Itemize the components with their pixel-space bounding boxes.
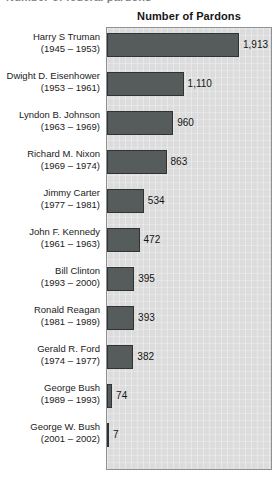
bar-container: 863 xyxy=(107,150,271,174)
bar xyxy=(107,306,134,330)
category-years: (1945 – 1953) xyxy=(0,43,100,55)
bar xyxy=(107,384,112,408)
category-label: Dwight D. Eisenhower(1953 – 1961) xyxy=(0,70,100,93)
category-label: Richard M. Nixon(1969 – 1974) xyxy=(0,148,100,171)
bar xyxy=(107,345,133,369)
bar-container: 395 xyxy=(107,267,271,291)
category-years: (2001 – 2002) xyxy=(0,433,100,445)
category-years: (1953 – 1961) xyxy=(0,82,100,94)
category-label: John F. Kennedy(1961 – 1963) xyxy=(0,226,100,249)
category-label: George Bush(1989 – 1993) xyxy=(0,382,100,405)
category-name: Jimmy Carter xyxy=(44,187,100,198)
category-label: Lyndon B. Johnson(1963 – 1969) xyxy=(0,109,100,132)
chart-row: John F. Kennedy(1961 – 1963)472 xyxy=(0,222,277,261)
category-years: (1969 – 1974) xyxy=(0,160,100,172)
bar-value-label: 863 xyxy=(171,156,188,167)
category-name: John F. Kennedy xyxy=(29,226,100,237)
category-years: (1981 – 1989) xyxy=(0,316,100,328)
category-label: Harry S Truman(1945 – 1953) xyxy=(0,31,100,54)
bar-container: 534 xyxy=(107,189,271,213)
bar xyxy=(107,150,167,174)
chart-row: Dwight D. Eisenhower(1953 – 1961)1,110 xyxy=(0,66,277,105)
bar-value-label: 534 xyxy=(148,195,165,206)
category-label: George W. Bush(2001 – 2002) xyxy=(0,421,100,444)
category-name: Lyndon B. Johnson xyxy=(19,109,100,120)
bar xyxy=(107,423,109,447)
category-label: Ronald Reagan(1981 – 1989) xyxy=(0,304,100,327)
bar-container: 382 xyxy=(107,345,271,369)
bar-value-label: 382 xyxy=(137,351,154,362)
category-name: Gerald R. Ford xyxy=(37,343,100,354)
category-years: (1989 – 1993) xyxy=(0,394,100,406)
bar xyxy=(107,72,184,96)
chart-row: Bill Clinton(1993 – 2000)395 xyxy=(0,261,277,300)
category-years: (1963 – 1969) xyxy=(0,121,100,133)
bar-value-label: 74 xyxy=(116,390,127,401)
category-years: (1961 – 1963) xyxy=(0,238,100,250)
chart-row: Richard M. Nixon(1969 – 1974)863 xyxy=(0,144,277,183)
category-name: Harry S Truman xyxy=(33,31,100,42)
bar-container: 1,913 xyxy=(107,33,271,57)
chart-rows: Harry S Truman(1945 – 1953)1,913Dwight D… xyxy=(0,27,277,456)
bar xyxy=(107,228,140,252)
category-name: Bill Clinton xyxy=(55,265,100,276)
bar-container: 960 xyxy=(107,111,271,135)
category-label: Bill Clinton(1993 – 2000) xyxy=(0,265,100,288)
category-label: Gerald R. Ford(1974 – 1977) xyxy=(0,343,100,366)
bar xyxy=(107,267,134,291)
chart-title: Number of Pardons xyxy=(106,10,272,22)
bar xyxy=(107,111,173,135)
bar-value-label: 395 xyxy=(138,273,155,284)
bar-container: 74 xyxy=(107,384,271,408)
bar-value-label: 960 xyxy=(177,117,194,128)
chart-row: Jimmy Carter(1977 – 1981)534 xyxy=(0,183,277,222)
cropped-header-text: Number of federal pardons xyxy=(0,0,277,7)
bar-container: 7 xyxy=(107,423,271,447)
bar-value-label: 7 xyxy=(113,429,119,440)
bar-container: 1,110 xyxy=(107,72,271,96)
bar-value-label: 393 xyxy=(138,312,155,323)
bar xyxy=(107,33,239,57)
chart-row: George W. Bush(2001 – 2002)7 xyxy=(0,417,277,456)
bar-container: 393 xyxy=(107,306,271,330)
category-years: (1993 – 2000) xyxy=(0,277,100,289)
category-name: Ronald Reagan xyxy=(34,304,100,315)
category-name: George W. Bush xyxy=(30,421,100,432)
category-label: Jimmy Carter(1977 – 1981) xyxy=(0,187,100,210)
bar-value-label: 1,110 xyxy=(188,78,212,89)
bar xyxy=(107,189,144,213)
bar-container: 472 xyxy=(107,228,271,252)
category-years: (1977 – 1981) xyxy=(0,199,100,211)
bar-value-label: 472 xyxy=(144,234,161,245)
category-name: George Bush xyxy=(44,382,100,393)
chart-row: Lyndon B. Johnson(1963 – 1969)960 xyxy=(0,105,277,144)
category-name: Dwight D. Eisenhower xyxy=(7,70,100,81)
chart-row: Ronald Reagan(1981 – 1989)393 xyxy=(0,300,277,339)
bar-value-label: 1,913 xyxy=(243,39,268,50)
chart-row: Harry S Truman(1945 – 1953)1,913 xyxy=(0,27,277,66)
category-years: (1974 – 1977) xyxy=(0,355,100,367)
chart-row: Gerald R. Ford(1974 – 1977)382 xyxy=(0,339,277,378)
cropped-header-label: Number of federal pardons xyxy=(6,0,152,3)
category-name: Richard M. Nixon xyxy=(27,148,100,159)
pardons-bar-chart: Number of Pardons Harry S Truman(1945 – … xyxy=(0,7,277,479)
chart-row: George Bush(1989 – 1993)74 xyxy=(0,378,277,417)
